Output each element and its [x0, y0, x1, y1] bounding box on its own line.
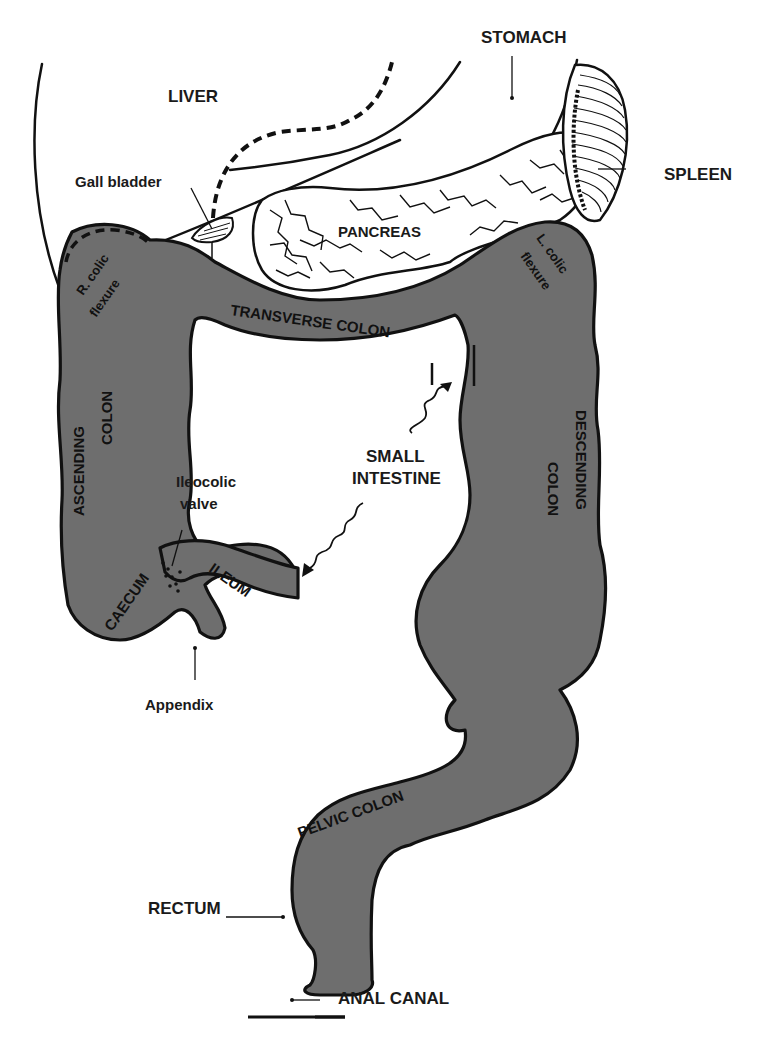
label-ileocolic-valve-1: Ileocolic: [176, 473, 236, 490]
label-small-intestine-2: INTESTINE: [352, 469, 441, 488]
label-ascending-colon-1: ASCENDING: [70, 426, 87, 516]
label-anal-canal: ANAL CANAL: [338, 989, 449, 1008]
label-rectum: RECTUM: [148, 899, 221, 918]
label-ileocolic-valve-2: valve: [180, 495, 218, 512]
label-descending-colon-1: DESCENDING: [573, 410, 590, 510]
abdominal-wall-line: [35, 64, 60, 290]
label-stomach: STOMACH: [481, 28, 567, 47]
appendix-pointer-dot: [193, 646, 197, 650]
small-intestine-arrowhead-down: [302, 563, 314, 577]
spleen-shape: [563, 65, 627, 221]
label-spleen: SPLEEN: [664, 165, 732, 184]
stomach-pointer-dot: [510, 96, 514, 100]
label-descending-colon-2: COLON: [545, 462, 562, 516]
label-gall-bladder: Gall bladder: [75, 173, 162, 190]
colon-anatomy-diagram: STOMACH LIVER SPLEEN Gall bladder PANCRE…: [0, 0, 764, 1037]
gall-bladder-pointer: [191, 188, 212, 229]
label-appendix: Appendix: [145, 696, 214, 713]
small-intestine-arrow-up: [410, 386, 446, 433]
label-pancreas: PANCREAS: [338, 223, 421, 240]
label-ascending-colon-2: COLON: [98, 391, 115, 445]
colon-body: [58, 222, 605, 995]
stomach-lesser-curve: [230, 62, 460, 170]
anal-canal-pointer-dot: [290, 998, 294, 1002]
label-small-intestine-1: SMALL: [366, 447, 425, 466]
rectum-pointer-dot: [281, 915, 285, 919]
small-intestine-arrow-down: [310, 503, 363, 568]
label-liver: LIVER: [168, 87, 218, 106]
